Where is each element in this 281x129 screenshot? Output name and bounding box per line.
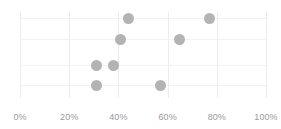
scatter-chart: 0%20%40%60%80%100% <box>0 0 281 129</box>
gridline-horizontal-4 <box>20 18 266 19</box>
x-axis-tick-label: 0% <box>13 112 26 123</box>
x-axis: 0%20%40%60%80%100% <box>0 106 281 129</box>
data-point[interactable] <box>115 34 126 45</box>
x-axis-tick-label: 20% <box>60 112 78 123</box>
data-point[interactable] <box>204 13 215 24</box>
gridline-vertical-100pct <box>266 12 267 98</box>
data-point[interactable] <box>174 34 185 45</box>
x-axis-tick-label: 80% <box>208 112 226 123</box>
gridline-horizontal-2 <box>20 65 266 66</box>
data-point[interactable] <box>155 80 166 91</box>
data-point[interactable] <box>91 80 102 91</box>
data-point[interactable] <box>108 60 119 71</box>
x-axis-tick-label: 60% <box>158 112 176 123</box>
gridline-horizontal-3 <box>20 39 266 40</box>
plot-area <box>0 0 281 104</box>
data-point[interactable] <box>123 13 134 24</box>
x-axis-tick-label: 40% <box>109 112 127 123</box>
x-axis-tick-label: 100% <box>254 112 277 123</box>
data-point[interactable] <box>91 60 102 71</box>
gridline-horizontal-1 <box>20 85 266 86</box>
